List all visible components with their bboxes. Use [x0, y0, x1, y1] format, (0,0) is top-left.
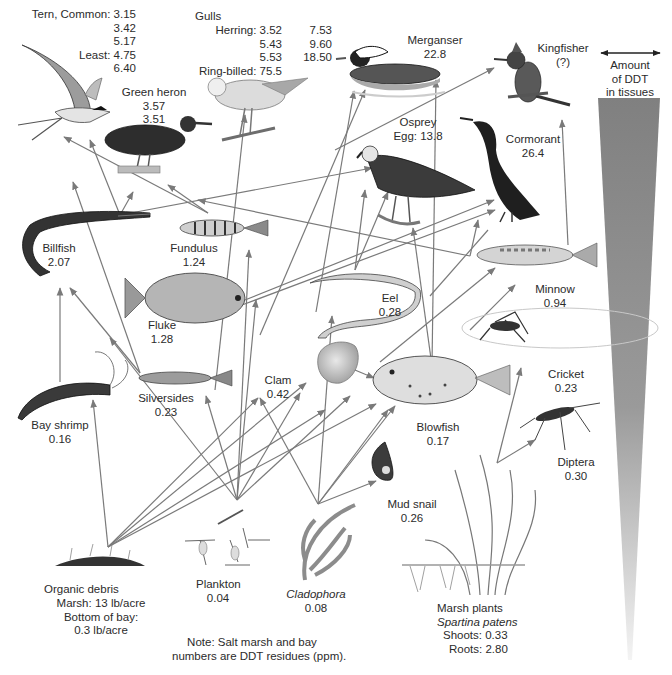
blowfish-label: Blowfish 0.17: [410, 421, 466, 448]
gulls-herring-col2: 7.53 9.60 18.50: [290, 24, 332, 65]
tern-least-value-1: Least: 4.75: [28, 49, 136, 63]
ddt-amount-legend: [598, 53, 660, 660]
mud-snail-illustration: [372, 442, 393, 480]
blowfish-illustration: [373, 356, 510, 404]
clam-label: Clam 0.42: [262, 374, 294, 401]
osprey-illustration: [357, 146, 475, 224]
organic-debris-illustration: [55, 544, 145, 566]
tern-label: Tern, Common: 3.15 3.42 5.17 Least: 4.75…: [28, 8, 136, 76]
legend-label: Amount of DDT in tissues: [598, 59, 662, 100]
food-web-diagram: Tern, Common: 3.15 3.42 5.17 Least: 4.75…: [0, 0, 672, 675]
cormorant-label: Cormorant 26.4: [500, 133, 566, 160]
eel-label: Eel 0.28: [368, 292, 412, 319]
cladophora-label: Cladophora 0.08: [284, 588, 348, 615]
kingfisher-label: Kingfisher (?): [530, 42, 596, 69]
organic-debris-label: Organic debris: [44, 583, 119, 597]
mud-snail-label: Mud snail 0.26: [382, 498, 442, 525]
bay-shrimp-illustration: [18, 352, 128, 420]
plankton-label: Plankton 0.04: [196, 578, 240, 605]
gulls-title: Gulls: [195, 10, 221, 24]
fluke-label: Fluke 1.28: [142, 319, 182, 346]
marsh-plants-illustration: [402, 455, 536, 595]
fundulus-label: Fundulus 1.24: [168, 242, 220, 269]
food-web-graphics: [0, 0, 672, 675]
fluke-illustration: [125, 273, 245, 323]
tern-common-value-3: 5.17: [28, 35, 136, 49]
clam-illustration: [318, 342, 359, 383]
billfish-label: Billfish 2.07: [36, 242, 82, 269]
diptera-illustration: [520, 403, 600, 450]
tern-common-value-2: 3.42: [28, 22, 136, 36]
silversides-illustration: [139, 370, 232, 386]
minnow-illustration: [477, 243, 597, 267]
osprey-label: Osprey Egg: 13.8: [388, 116, 448, 143]
gulls-herring-col1: Herring: 3.52 5.43 5.53 Ring-billed: 75.…: [188, 24, 282, 78]
silversides-label: Silversides 0.23: [134, 392, 198, 419]
green-heron-label: Green heron 3.57 3.51: [118, 86, 190, 127]
organic-debris-values: Marsh: 13 lb/acre Bottom of bay: 0.3 lb/…: [56, 597, 146, 638]
tern-common-value-1: Tern, Common: 3.15: [28, 8, 136, 22]
cricket-label: Cricket 0.23: [542, 368, 590, 395]
marsh-plants-label: Marsh plants Spartina patens Shoots: 0.3…: [437, 602, 518, 656]
bay-shrimp-label: Bay shrimp 0.16: [28, 419, 92, 446]
plankton-illustration: [185, 510, 270, 565]
diptera-label: Diptera 0.30: [552, 456, 600, 483]
ppm-note: Note: Salt marsh and bay numbers are DDT…: [172, 636, 332, 663]
merganser-label: Merganser 22.8: [400, 34, 470, 61]
fundulus-illustration: [180, 220, 268, 236]
tern-least-value-2: 6.40: [28, 62, 136, 76]
cladophora-illustration: [303, 505, 355, 580]
gull-illustration: [208, 78, 308, 140]
minnow-label: Minnow 0.94: [532, 283, 578, 310]
